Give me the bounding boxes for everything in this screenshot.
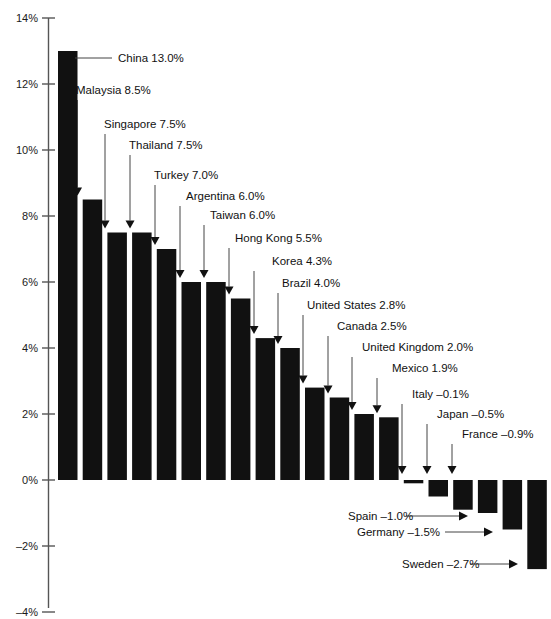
arrowhead-down-icon [200, 270, 209, 278]
arrowhead-down-icon [225, 287, 234, 295]
chart-canvas: 14%12%10%8%6%4%2%0%–2%–4% China 13.0%Mal… [0, 0, 551, 619]
annotation-label: Singapore 7.5% [104, 118, 186, 130]
annotation-label: Spain –1.0% [348, 510, 413, 522]
bar [354, 414, 374, 480]
bar [132, 233, 152, 481]
arrowhead-right-icon [484, 528, 493, 537]
y-tick-label: 4% [22, 342, 38, 354]
y-tick-label: 2% [22, 408, 38, 420]
annotation-label: Brazil 4.0% [282, 277, 340, 289]
bar-chart-figure: 14%12%10%8%6%4%2%0%–2%–4% China 13.0%Mal… [0, 0, 551, 619]
arrowhead-down-icon [324, 386, 333, 394]
arrowhead-right-icon [509, 560, 518, 569]
bar [280, 348, 300, 480]
bar [107, 233, 127, 481]
bar [305, 388, 325, 480]
arrowhead-down-icon [423, 466, 432, 474]
annotation-label: Mexico 1.9% [392, 362, 458, 374]
arrowhead-down-icon [398, 466, 407, 474]
annotation-label: United States 2.8% [307, 299, 405, 311]
annotation-label: Hong Kong 5.5% [235, 232, 322, 244]
y-tick-label: 6% [22, 276, 38, 288]
y-tick-label: 10% [16, 144, 38, 156]
y-tick-label: 14% [16, 12, 38, 24]
annotation-label: Taiwan 6.0% [210, 209, 275, 221]
y-axis-tick-labels: 14%12%10%8%6%4%2%0%–2%–4% [16, 12, 38, 618]
arrowhead-down-icon [299, 376, 308, 384]
arrowhead-down-icon [151, 237, 160, 245]
arrowhead-down-icon [176, 270, 185, 278]
arrowhead-down-icon [373, 405, 382, 413]
arrowhead-down-icon [250, 326, 259, 334]
bar [453, 480, 473, 510]
bar [503, 480, 522, 530]
annotation-label: Canada 2.5% [337, 320, 407, 332]
bar [527, 480, 547, 569]
annotation-label: Malaysia 8.5% [76, 84, 151, 96]
bar [256, 338, 276, 480]
bar [157, 249, 177, 480]
bar [182, 282, 202, 480]
y-tick-label: 8% [22, 210, 38, 222]
annotation-label: Japan –0.5% [437, 408, 504, 420]
bar [83, 200, 103, 481]
annotation-label: France –0.9% [462, 428, 534, 440]
y-tick-label: 0% [22, 474, 38, 486]
annotation-label: Germany –1.5% [357, 526, 440, 538]
annotation-label: Thailand 7.5% [129, 139, 203, 151]
annotation-label: Turkey 7.0% [154, 169, 218, 181]
arrowhead-down-icon [126, 221, 135, 229]
annotation-label: Sweden –2.7% [402, 558, 479, 570]
bar [429, 480, 449, 497]
arrowhead-right-icon [459, 512, 468, 521]
annotation-label: China 13.0% [118, 52, 184, 64]
bar [330, 398, 350, 481]
bar [206, 282, 226, 480]
bar [379, 417, 399, 480]
y-tick-label: –2% [16, 540, 38, 552]
arrowhead-down-icon [448, 466, 457, 474]
bar [231, 299, 251, 481]
annotation-label: Korea 4.3% [272, 255, 332, 267]
bar [404, 480, 424, 483]
bar [478, 480, 498, 513]
y-tick-label: –4% [16, 606, 38, 618]
annotation-label: Argentina 6.0% [186, 190, 265, 202]
y-tick-label: 12% [16, 78, 38, 90]
annotation-label: Italy –0.1% [412, 388, 469, 400]
annotation-label: United Kingdom 2.0% [362, 341, 473, 353]
bar [58, 51, 78, 480]
